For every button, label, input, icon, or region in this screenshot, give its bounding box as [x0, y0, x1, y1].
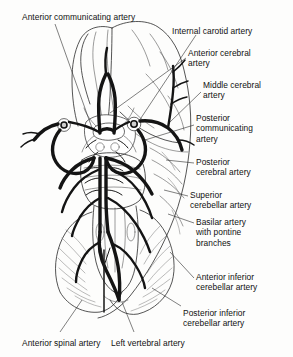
- leader-posterior-inferior-cerebellar-artery: [152, 288, 181, 306]
- label-anterior-inferior-cerebellar-artery: Anterior inferior cerebellar artery: [196, 272, 257, 293]
- pons-transverse-fiber-3: [85, 187, 141, 190]
- mca-branch-right-2: [173, 81, 188, 88]
- leader-left-vertebral-artery: [122, 302, 134, 332]
- cerebellum-left-outline: [56, 212, 123, 312]
- arteries-group: [21, 48, 194, 312]
- leader-anterior-communicating-artery: [55, 24, 92, 128]
- label-internal-carotid-artery: Internal carotid artery: [172, 26, 252, 36]
- temporal-underside-edge-1: [150, 148, 180, 172]
- cerebellar-vermis: [104, 296, 128, 302]
- frontal-pole-fold: [81, 34, 90, 104]
- pontine-branch-right-3: [107, 190, 122, 195]
- label-posterior-cerebral-artery: Posterior cerebral artery: [196, 157, 251, 178]
- internal-carotid-artery-right-inner: [131, 121, 137, 127]
- label-anterior-spinal-artery: Anterior spinal artery: [22, 338, 100, 348]
- medulla-pyramid-right: [122, 208, 125, 268]
- label-posterior-inferior-cerebellar-artery: Posterior inferior cerebellar artery: [183, 308, 245, 329]
- label-superior-cerebellar-artery: Superior cerebellar artery: [190, 190, 251, 211]
- temporal-underside-edge-2: [152, 160, 182, 184]
- label-posterior-communicating-artery: Posterior communicating artery: [196, 113, 253, 144]
- right-hemisphere-sulcus-4: [146, 74, 170, 108]
- pontine-branch-right-2: [107, 178, 123, 183]
- label-left-vertebral-artery: Left vertebral artery: [111, 338, 185, 348]
- label-anterior-cerebral-artery: Anterior cerebral artery: [188, 48, 251, 69]
- middle-cerebral-branch-left-1: [23, 133, 40, 135]
- superior-cerebellar-artery-right: [112, 170, 152, 218]
- pontine-branch-left-2: [85, 178, 100, 183]
- middle-cerebral-branch-left-2: [21, 139, 36, 147]
- internal-carotid-artery-left-inner: [61, 122, 67, 128]
- label-anterior-communicating-artery: Anterior communicating artery: [22, 12, 135, 22]
- basilar-artery: [106, 158, 108, 232]
- label-middle-cerebral-artery: Middle cerebral artery: [203, 80, 261, 101]
- olive-right: [127, 223, 135, 241]
- anterior-cerebral-artery-distal: [105, 48, 107, 74]
- anatomical-figure-circle-of-willis: .outline { fill:none; stroke:#2a2a2a; st…: [0, 0, 293, 357]
- right-hemisphere-sulcus-1: [132, 30, 150, 66]
- leader-superior-cerebellar-artery: [164, 190, 188, 196]
- right-hemisphere-sulcus-2: [150, 34, 168, 70]
- pontine-branch-left-3: [86, 190, 100, 195]
- left-vertebral-artery-vessel: [99, 232, 119, 300]
- label-basilar-artery-with-pontine-branches: Basilar artery with pontine branches: [196, 217, 246, 248]
